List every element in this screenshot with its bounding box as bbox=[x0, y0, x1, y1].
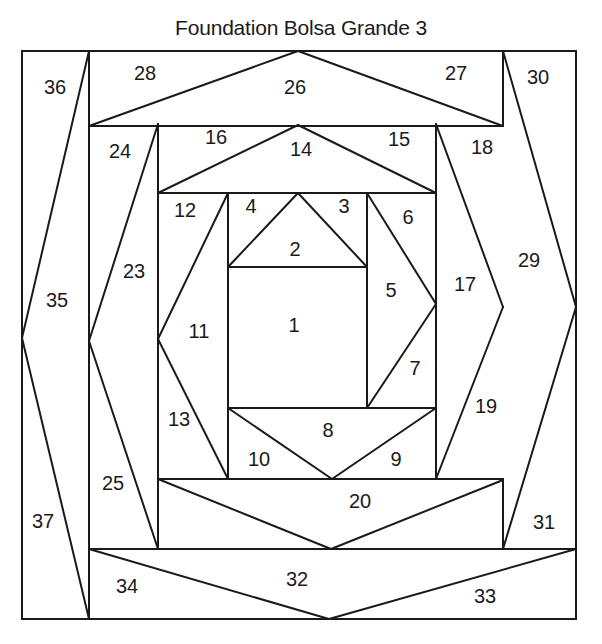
seam-line bbox=[298, 193, 367, 267]
piece-label-32: 32 bbox=[286, 568, 308, 590]
piece-label-3: 3 bbox=[338, 195, 349, 217]
piece-label-16: 16 bbox=[205, 126, 227, 148]
piece-label-37: 37 bbox=[32, 510, 54, 532]
seam-line bbox=[228, 193, 298, 267]
piece-label-17: 17 bbox=[454, 273, 476, 295]
piece-label-31: 31 bbox=[533, 511, 555, 533]
piece-label-33: 33 bbox=[474, 585, 496, 607]
piece-label-27: 27 bbox=[445, 62, 467, 84]
piece-label-5: 5 bbox=[385, 279, 396, 301]
piece-label-15: 15 bbox=[388, 128, 410, 150]
piece-label-13: 13 bbox=[168, 408, 190, 430]
seam-line bbox=[228, 408, 332, 479]
piece-label-36: 36 bbox=[44, 76, 66, 98]
seam-line bbox=[298, 51, 503, 126]
piece-label-11: 11 bbox=[189, 320, 210, 342]
seam-line bbox=[158, 125, 298, 193]
piece-label-35: 35 bbox=[46, 289, 68, 311]
piece-label-30: 30 bbox=[527, 66, 549, 88]
seam-line bbox=[436, 307, 503, 479]
piece-label-1: 1 bbox=[288, 314, 299, 336]
piece-label-19: 19 bbox=[475, 395, 497, 417]
piece-label-9: 9 bbox=[390, 448, 401, 470]
piece-label-25: 25 bbox=[102, 472, 124, 494]
piece-label-26: 26 bbox=[284, 76, 306, 98]
piece-label-8: 8 bbox=[322, 419, 333, 441]
seam-line bbox=[22, 338, 89, 619]
piece-numbers: 1234567891011121314151617181920232425262… bbox=[32, 62, 555, 607]
seam-line bbox=[298, 125, 436, 193]
piece-label-20: 20 bbox=[349, 490, 371, 512]
piece-label-28: 28 bbox=[134, 62, 156, 84]
seam-line bbox=[89, 51, 298, 126]
seam-line bbox=[158, 479, 331, 549]
piece-label-34: 34 bbox=[116, 575, 138, 597]
seam-line bbox=[329, 549, 576, 619]
seam-line bbox=[332, 408, 436, 479]
piece-label-23: 23 bbox=[123, 260, 145, 282]
piece-label-29: 29 bbox=[518, 249, 540, 271]
foundation-piecing-diagram: 1234567891011121314151617181920232425262… bbox=[0, 0, 602, 644]
piece-label-7: 7 bbox=[409, 357, 420, 379]
piece-label-6: 6 bbox=[402, 206, 413, 228]
piece-label-12: 12 bbox=[174, 199, 196, 221]
piece-label-2: 2 bbox=[289, 238, 300, 260]
piece-label-4: 4 bbox=[245, 195, 256, 217]
piece-label-14: 14 bbox=[290, 138, 312, 160]
piece-label-24: 24 bbox=[109, 140, 131, 162]
piece-label-18: 18 bbox=[471, 136, 493, 158]
piece-label-10: 10 bbox=[248, 448, 270, 470]
seam-line bbox=[367, 304, 436, 408]
seam-line bbox=[89, 341, 158, 549]
